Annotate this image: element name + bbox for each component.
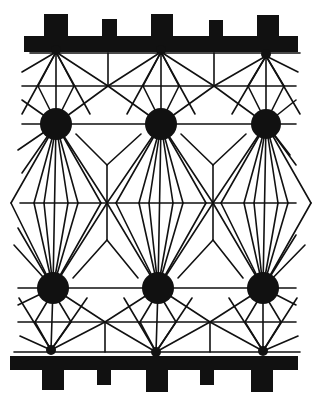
top-rail-tooth: [209, 20, 223, 38]
fan-line: [248, 86, 260, 110]
fan-line: [56, 52, 90, 114]
anchor-point: [156, 45, 166, 55]
vertical-link: [158, 124, 161, 288]
fan-line: [143, 86, 155, 110]
bottom-rail-tooth: [200, 368, 214, 385]
fan-line: [38, 86, 50, 110]
bottom-rail-tooth: [251, 368, 273, 392]
top-rail-tooth: [44, 14, 68, 38]
node-n6: [247, 272, 279, 304]
top-rail-tooth: [102, 19, 117, 38]
fan-line: [164, 302, 176, 322]
junction-line: [214, 56, 266, 86]
fan-line: [272, 86, 284, 110]
hex-edge: [178, 240, 213, 278]
hex-edge: [76, 134, 107, 165]
junction-line: [161, 52, 214, 86]
anchor-point: [261, 49, 271, 59]
top-rail-tooth: [151, 14, 173, 38]
fan-line: [167, 86, 179, 110]
node-n3: [251, 109, 281, 139]
node-n2: [145, 108, 177, 140]
junction-line: [210, 322, 263, 351]
node-n1: [40, 108, 72, 140]
hex-edge: [73, 240, 107, 278]
junction-line: [51, 322, 105, 350]
fan-line: [127, 52, 161, 114]
node-n5: [142, 272, 174, 304]
fan-line: [62, 86, 74, 110]
diagram-svg: [0, 0, 316, 406]
fan-line: [59, 302, 71, 322]
anchor-point: [46, 345, 56, 355]
fan-line: [245, 302, 257, 322]
anchor-point: [51, 45, 61, 55]
fan-line: [161, 52, 195, 114]
anchor-point: [258, 346, 268, 356]
junction-line: [108, 52, 161, 86]
bottom-rail-tooth: [146, 368, 168, 392]
bottom-rail: [10, 356, 298, 370]
bottom-rail-tooth: [42, 368, 64, 390]
anchor-point: [151, 347, 161, 357]
vertical-link: [53, 124, 56, 288]
fan-line: [269, 302, 281, 322]
junction-line: [56, 52, 108, 86]
fan-line: [35, 302, 47, 322]
lattice-diagram: [0, 0, 316, 406]
top-rail-tooth: [257, 15, 279, 38]
vertical-link: [263, 124, 266, 288]
bottom-rail-tooth: [97, 368, 111, 385]
node-n4: [37, 272, 69, 304]
junction-line: [156, 322, 210, 352]
fan-line: [232, 56, 266, 114]
fan-line: [140, 302, 152, 322]
connection-lines: [11, 52, 311, 352]
